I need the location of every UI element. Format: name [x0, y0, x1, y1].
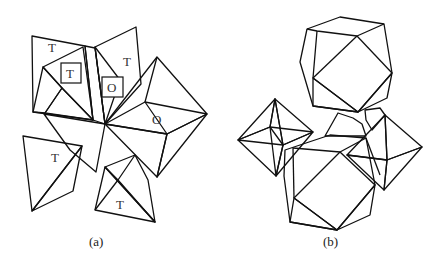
polyhedra-figure: T T T O O T T	[0, 0, 441, 267]
octahedron-right-b	[347, 115, 422, 190]
label-t-3: T	[51, 150, 59, 165]
connector-wedge	[325, 113, 366, 136]
panel-a: T T T O O T T	[23, 27, 207, 222]
tetrahedron-top-right	[95, 27, 141, 124]
tetrahedron-bottom-left	[23, 136, 82, 211]
caption-b: (b)	[323, 234, 338, 250]
octahedron-left-b	[238, 99, 313, 176]
label-t-1: T	[48, 40, 56, 55]
label-o-boxed: O	[107, 80, 116, 95]
tetrahedron-dark-left	[33, 67, 62, 113]
label-o: O	[152, 112, 161, 127]
label-t-4: T	[116, 197, 124, 212]
panel-b	[238, 17, 422, 230]
cuboctahedron-top	[300, 17, 392, 112]
label-t-boxed: T	[66, 66, 74, 81]
caption-a: (a)	[89, 234, 103, 250]
label-t-2: T	[123, 54, 131, 69]
